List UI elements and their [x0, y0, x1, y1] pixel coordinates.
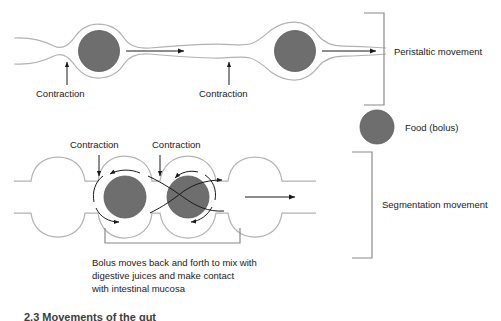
food-bolus-label: Food (bolus) [405, 122, 458, 134]
segmentation-caption-line-1: Bolus moves back and forth to mix with [92, 257, 257, 269]
peristaltic-movement-label: Peristaltic movement [394, 46, 482, 58]
segmentation-movement-label: Segmentation movement [382, 199, 488, 211]
segmentation-caption-line-2: digestive juices and make contact [92, 270, 234, 282]
peristalsis-contraction-label-1: Contraction [36, 88, 85, 100]
segmentation-caption-bracket [105, 228, 240, 243]
segmentation-bracket [352, 152, 372, 258]
legend-bolus-circle [360, 110, 394, 144]
figure-caption-cropped: 2.3 Movements of the gut [24, 311, 284, 321]
segmentation-bolus-1 [104, 176, 146, 218]
peristalsis-bolus-1 [79, 31, 120, 72]
figure-canvas: Contraction Contraction Peristaltic move… [0, 0, 501, 321]
segmentation-contraction-label-2: Contraction [152, 139, 201, 151]
peristalsis-bracket [364, 13, 384, 105]
peristalsis-bolus-2 [275, 31, 316, 72]
peristalsis-contraction-label-2: Contraction [199, 88, 248, 100]
segmentation-caption-line-3: with intestinal mucosa [92, 283, 185, 295]
segmentation-contraction-label-1: Contraction [70, 139, 119, 151]
